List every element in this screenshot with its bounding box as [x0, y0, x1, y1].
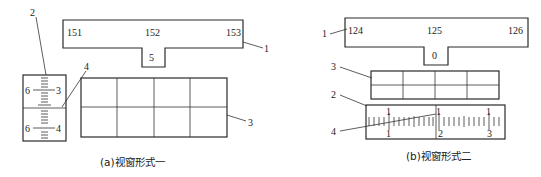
leader-a-2	[36, 17, 46, 75]
leader-a-3	[227, 115, 246, 121]
scale-label-lower-left: 6	[25, 123, 30, 134]
callout-b-4: 4	[331, 126, 336, 137]
leader-b-2	[340, 95, 367, 106]
leader-b-3	[340, 67, 372, 78]
scale-top-label-2: 1	[436, 106, 441, 117]
callout-b-2: 2	[331, 89, 336, 100]
caption-b: (b)视窗形式二	[406, 150, 471, 162]
caption-a: (a)视窗形式一	[100, 156, 166, 168]
callout-a-1: 1	[264, 43, 269, 54]
window-a-label-151: 151	[67, 27, 82, 38]
scale-bottom-label-3: 3	[487, 128, 492, 139]
leader-a-1	[243, 42, 263, 48]
window-b-label-125: 125	[427, 25, 442, 36]
scale-label-upper-right: 3	[56, 85, 61, 96]
window-a-label-152: 152	[145, 27, 160, 38]
scale-bottom-label-1: 1	[386, 128, 391, 139]
callout-a-4: 4	[84, 61, 89, 72]
window-a-label-153: 153	[226, 27, 241, 38]
callout-a-2: 2	[30, 7, 35, 18]
figure-a: 151 152 153 5 1 6 3 6 4 2 4	[23, 7, 269, 168]
diagram-canvas: 151 152 153 5 1 6 3 6 4 2 4	[0, 0, 541, 177]
figure-b: 124 125 126 0 1 3	[322, 18, 528, 162]
callout-b-3: 3	[331, 61, 336, 72]
window-b-label-124: 124	[348, 25, 363, 36]
notch-a-label: 5	[149, 52, 154, 63]
window-b-label-126: 126	[508, 25, 523, 36]
scale-label-upper-left: 6	[25, 85, 30, 96]
scale-top-label-3: 1	[486, 106, 491, 117]
notch-b-label: 0	[432, 50, 437, 61]
callout-a-3: 3	[248, 117, 253, 128]
scale-bottom-label-2: 2	[438, 128, 443, 139]
scale-label-lower-right: 4	[56, 123, 61, 134]
callout-b-1: 1	[322, 28, 327, 39]
scale-top-label-1: 1	[386, 106, 391, 117]
